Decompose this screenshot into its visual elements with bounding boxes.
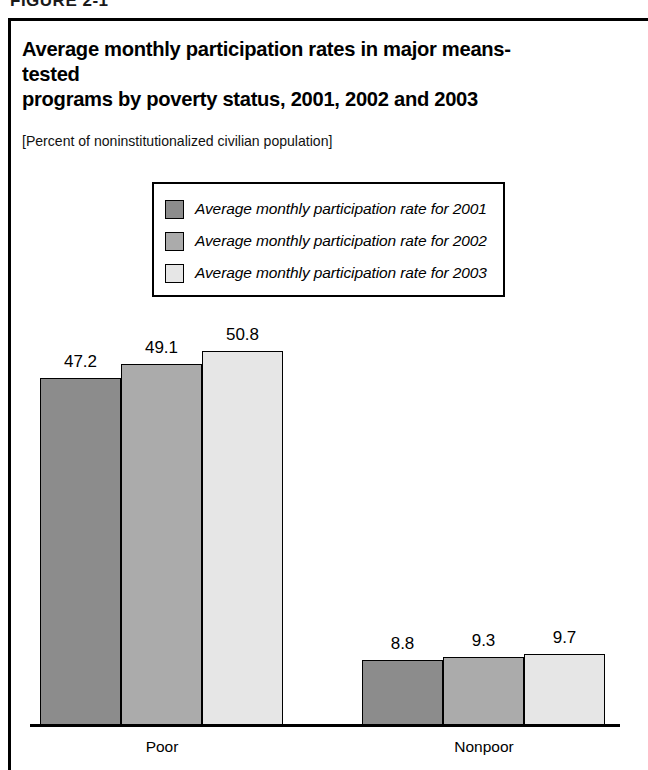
- bar-value-label: 8.8: [362, 634, 443, 654]
- x-axis-line: [30, 724, 620, 727]
- bar-nonpoor-1: [362, 660, 443, 725]
- bar-poor-1: [40, 378, 121, 725]
- bar-value-label: 50.8: [202, 325, 283, 345]
- bar-poor-2: [121, 364, 202, 725]
- bar-value-label: 9.3: [443, 631, 524, 651]
- bar-value-label: 49.1: [121, 338, 202, 358]
- x-axis-category-label: Nonpoor: [414, 738, 554, 756]
- bar-value-label: 47.2: [40, 352, 121, 372]
- bar-nonpoor-2: [443, 657, 524, 725]
- bar-value-label: 9.7: [524, 628, 605, 648]
- bars-layer: 47.249.150.88.89.39.7: [0, 0, 631, 725]
- x-axis-category-label: Poor: [92, 738, 232, 756]
- bar-poor-3: [202, 351, 283, 725]
- bar-nonpoor-3: [524, 654, 605, 725]
